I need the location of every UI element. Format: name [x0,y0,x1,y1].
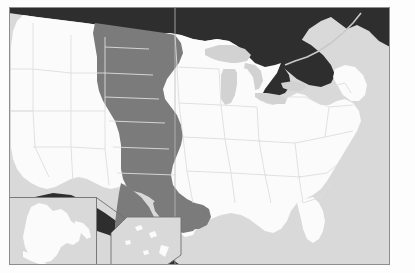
map-canvas [9,7,390,265]
hawaii-inset [111,217,181,265]
map-frame [9,7,390,265]
alaska-inset [9,197,97,265]
figure-root [0,0,415,273]
hawaii-inset-background [111,217,181,265]
